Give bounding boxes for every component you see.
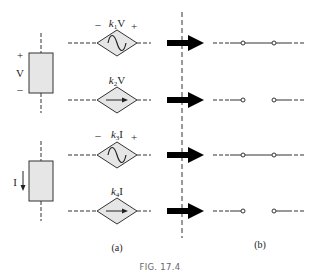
- source-3-label: k3I: [111, 128, 123, 142]
- voltage-minus-label: –: [16, 83, 23, 95]
- source-row-2: [68, 87, 151, 113]
- current-symbol: I: [13, 176, 17, 188]
- equivalent-open-circuit: [213, 209, 306, 213]
- source-3-plus: +: [131, 131, 137, 143]
- panel-b-label: (b): [254, 239, 266, 251]
- source-4-label: k4I: [111, 185, 123, 199]
- source-1-plus: +: [131, 20, 137, 32]
- transform-arrow-icon: [167, 35, 204, 219]
- controlling-current-element: [29, 141, 53, 221]
- source-row-1: [68, 30, 151, 56]
- source-row-3: [68, 142, 151, 168]
- current-direction-arrow-icon: [21, 171, 26, 191]
- voltage-symbol: V: [16, 67, 24, 79]
- panel-a-label: (a): [111, 242, 122, 254]
- source-2-label: k2V: [109, 74, 125, 88]
- equivalent-short-circuit: [213, 41, 306, 45]
- equivalent-open-circuit: [213, 98, 306, 102]
- source-1-label: k1V: [109, 17, 125, 31]
- figure-canvas: + V – I – k1V + k2V – k3I +: [0, 0, 320, 274]
- source-1-minus: –: [94, 18, 101, 30]
- equivalent-short-circuit: [213, 153, 306, 157]
- controlling-voltage-element: [29, 33, 53, 113]
- source-row-4: [68, 198, 151, 224]
- source-3-minus: –: [94, 129, 101, 141]
- figure-caption: FIG. 17.4: [139, 262, 180, 272]
- voltage-plus-label: +: [17, 49, 23, 61]
